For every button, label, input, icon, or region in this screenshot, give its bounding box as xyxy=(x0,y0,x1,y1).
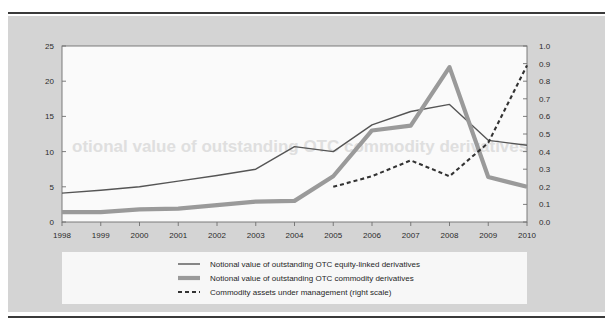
chart-figure: otional value of outstanding OTC commodi… xyxy=(0,0,613,325)
right-axis-tick-label: 0.9 xyxy=(539,60,551,69)
x-axis-tick-label: 2008 xyxy=(441,231,459,240)
watermark-text-layer: otional value of outstanding OTC commodi… xyxy=(72,137,528,156)
right-axis-tick-label: 0.1 xyxy=(539,200,551,209)
legend-label: Notional value of outstanding OTC equity… xyxy=(210,260,420,269)
plot-frame xyxy=(62,46,527,222)
left-axis-tick-label: 25 xyxy=(45,42,54,51)
right-axis-tick-label: 0.0 xyxy=(539,218,551,227)
x-axis-tick-label: 2010 xyxy=(518,231,536,240)
legend-label: Commodity assets under management (right… xyxy=(210,288,392,297)
background-watermark: otional value of outstanding OTC commodi… xyxy=(72,137,528,156)
x-axis-tick-label: 2001 xyxy=(169,231,187,240)
right-axis-tick-label: 0.5 xyxy=(539,130,551,139)
left-axis-tick-label: 20 xyxy=(45,77,54,86)
left-axis-tick-label: 5 xyxy=(50,183,55,192)
x-axis-tick-label: 2000 xyxy=(131,231,149,240)
legend-layer: Notional value of outstanding OTC equity… xyxy=(178,260,420,297)
x-axis-tick-label: 2009 xyxy=(479,231,497,240)
right-axis-tick-label: 0.2 xyxy=(539,183,551,192)
legend-label: Notional value of outstanding OTC commod… xyxy=(210,274,414,283)
right-axis-tick-label: 0.3 xyxy=(539,165,551,174)
x-axis-tick-label: 1998 xyxy=(53,231,71,240)
x-axis-tick-label: 2006 xyxy=(363,231,381,240)
right-axis-tick-label: 0.8 xyxy=(539,77,551,86)
x-axis-tick-label: 2007 xyxy=(402,231,420,240)
x-axis-tick-label: 2005 xyxy=(324,231,342,240)
left-axis-tick-label: 10 xyxy=(45,148,54,157)
x-axis-tick-label: 1999 xyxy=(92,231,110,240)
x-axis-tick-label: 2004 xyxy=(286,231,304,240)
x-axis-tick-label: 2002 xyxy=(208,231,226,240)
right-axis-tick-label: 0.6 xyxy=(539,112,551,121)
right-axis-tick-label: 0.4 xyxy=(539,148,551,157)
right-axis-tick-label: 1.0 xyxy=(539,42,551,51)
chart-svg: otional value of outstanding OTC commodi… xyxy=(0,0,613,325)
series-line xyxy=(333,65,527,186)
right-axis-tick-label: 0.7 xyxy=(539,95,551,104)
left-axis-tick-label: 15 xyxy=(45,112,54,121)
left-axis-tick-label: 0 xyxy=(50,218,55,227)
x-axis-tick-label: 2003 xyxy=(247,231,265,240)
